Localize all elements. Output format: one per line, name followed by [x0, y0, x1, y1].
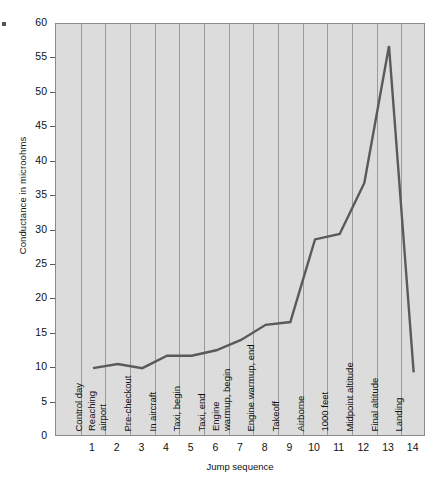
y-tick-label: 15: [17, 326, 47, 338]
y-tick-label: 60: [17, 16, 47, 28]
category-label: In aircraft: [147, 391, 158, 431]
conductance-line-chart: Conductance in microohms 051015202530354…: [0, 0, 443, 487]
y-tick-label: 30: [17, 223, 47, 235]
x-axis-title: Jump sequence: [55, 461, 425, 472]
x-tick-label: 9: [277, 441, 301, 453]
category-label: Reaching airport: [87, 391, 108, 431]
y-tick-label: 55: [17, 50, 47, 62]
x-tick-label: 2: [105, 441, 129, 453]
x-tick-label: 14: [401, 441, 425, 453]
series-line: [56, 24, 426, 437]
registration-dot: [2, 22, 6, 26]
x-tick-label: 10: [302, 441, 326, 453]
y-tick-label: 5: [17, 395, 47, 407]
category-label: Pre-checkout: [123, 375, 134, 431]
y-tick-label: 0: [17, 429, 47, 441]
y-tick-label: 50: [17, 85, 47, 97]
y-tick-label: 35: [17, 188, 47, 200]
plot-area: Control dayReaching airportPre-checkoutI…: [55, 23, 425, 436]
category-label: Midpoint altitude: [345, 362, 356, 431]
category-label: Taxi, begin: [172, 386, 183, 431]
y-tick-label: 40: [17, 154, 47, 166]
x-tick-label: 12: [351, 441, 375, 453]
category-label: Control day: [73, 382, 84, 431]
x-tick-label: 8: [253, 441, 277, 453]
x-tick-label: 13: [376, 441, 400, 453]
x-tick-label: 5: [179, 441, 203, 453]
y-tick-label: 25: [17, 257, 47, 269]
x-tick-label: 6: [203, 441, 227, 453]
x-tick-label: 1: [80, 441, 104, 453]
category-label: Airborne: [295, 395, 306, 431]
category-label: Taxi, end: [197, 393, 208, 431]
y-tick-label: 10: [17, 360, 47, 372]
category-label: Takeoff: [271, 401, 282, 431]
y-tick-label: 20: [17, 291, 47, 303]
x-tick-label: 3: [129, 441, 153, 453]
category-label: Landing: [394, 397, 405, 431]
x-tick-label: 11: [327, 441, 351, 453]
y-tick-label: 45: [17, 119, 47, 131]
category-label: 1000 feet: [320, 391, 331, 431]
category-label: Engine warmup, begin: [211, 369, 232, 431]
x-tick-label: 7: [228, 441, 252, 453]
x-tick-label: 4: [154, 441, 178, 453]
category-label: Engine warmup, end: [246, 344, 257, 431]
category-label: Final altitude: [369, 377, 380, 431]
